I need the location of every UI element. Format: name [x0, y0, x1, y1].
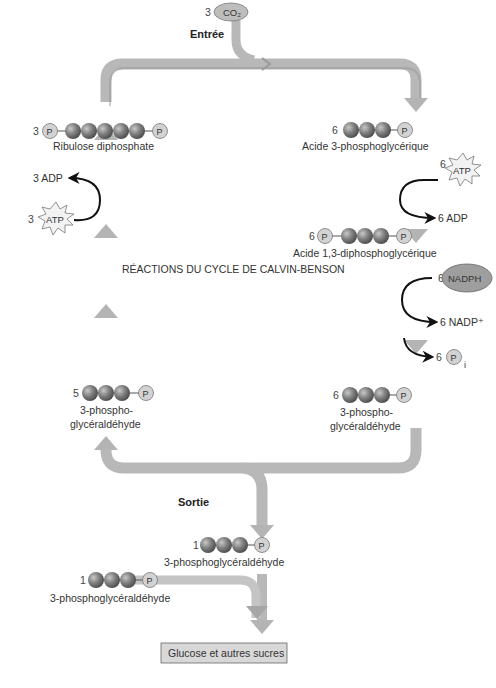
- svg-text:3: 3: [205, 6, 211, 18]
- svg-text:3-phospho-: 3-phospho-: [340, 406, 394, 418]
- svg-text:P: P: [147, 576, 153, 586]
- svg-text:1: 1: [193, 539, 199, 551]
- svg-text:6 NADP⁺: 6 NADP⁺: [440, 316, 484, 328]
- svg-text:6: 6: [436, 351, 442, 363]
- svg-text:3-phospho-: 3-phospho-: [80, 404, 134, 416]
- svg-text:3: 3: [28, 213, 34, 225]
- svg-text:6: 6: [332, 124, 338, 136]
- svg-text:3: 3: [33, 125, 39, 137]
- svg-text:P: P: [322, 232, 328, 242]
- svg-text:3 ADP: 3 ADP: [33, 172, 63, 184]
- cycle-title: RÉACTIONS DU CYCLE DE CALVIN-BENSON: [122, 263, 345, 275]
- svg-text:P: P: [451, 353, 457, 363]
- svg-text:glycéraldéhyde: glycéraldéhyde: [330, 420, 401, 432]
- molecule-pga: 6 P Acide 3-phosphoglycérique: [302, 122, 429, 152]
- svg-text:P: P: [401, 391, 407, 401]
- calvin-cycle-diagram: 3 CO₂ Entrée 3 P P Ribulose diphosphate …: [0, 0, 496, 688]
- svg-text:glycéraldéhyde: glycéraldéhyde: [70, 418, 141, 430]
- molecule-g3p-right: 6 P 3-phospho- glycéraldéhyde: [330, 387, 412, 432]
- svg-text:Glucose et autres sucres: Glucose et autres sucres: [168, 647, 284, 659]
- svg-text:NADPH: NADPH: [448, 273, 481, 284]
- svg-text:i: i: [464, 360, 466, 370]
- svg-text:6: 6: [309, 230, 315, 242]
- svg-text:3-phosphoglycéraldéhyde: 3-phosphoglycéraldéhyde: [50, 592, 170, 604]
- product-box: Glucose et autres sucres: [161, 643, 287, 663]
- atp-left: 3 ADP 3 ATP: [28, 172, 100, 235]
- svg-text:1: 1: [80, 574, 86, 586]
- svg-text:6 ADP: 6 ADP: [438, 212, 468, 224]
- svg-text:Acide 1,3-diphosphoglycérique: Acide 1,3-diphosphoglycérique: [293, 247, 437, 259]
- svg-text:ATP: ATP: [453, 165, 471, 176]
- svg-text:Ribulose diphosphate: Ribulose diphosphate: [53, 140, 154, 152]
- molecule-g3p-output-2: 1 P 3-phosphoglycéraldéhyde: [50, 572, 170, 604]
- svg-text:P: P: [402, 126, 408, 136]
- svg-text:P: P: [157, 127, 163, 137]
- molecule-g3p-left: 5 P 3-phospho- glycéraldéhyde: [70, 385, 154, 430]
- entry-label: Entrée: [190, 28, 224, 40]
- svg-text:P: P: [143, 389, 149, 399]
- svg-text:P: P: [47, 127, 53, 137]
- exit-label: Sortie: [178, 496, 209, 508]
- svg-text:5: 5: [73, 387, 79, 399]
- svg-text:ATP: ATP: [46, 214, 64, 225]
- svg-text:Acide 3-phosphoglycérique: Acide 3-phosphoglycérique: [302, 140, 429, 152]
- cycle-arrowheads: [94, 98, 428, 634]
- svg-text:P: P: [259, 541, 265, 551]
- svg-text:3-phosphoglycéraldéhyde: 3-phosphoglycéraldéhyde: [164, 556, 284, 568]
- molecule-g3p-output: 1 P 3-phosphoglycéraldéhyde: [164, 537, 284, 568]
- svg-text:P: P: [401, 232, 407, 242]
- svg-text:CO₂: CO₂: [223, 7, 241, 18]
- svg-text:6: 6: [333, 389, 339, 401]
